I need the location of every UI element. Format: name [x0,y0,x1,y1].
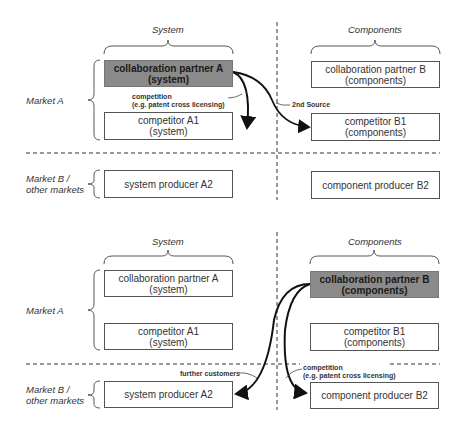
annotation-second-source: 2nd Source [292,101,330,109]
box-line2: (system) [138,126,199,137]
box-line2: (components) [345,127,407,138]
box-component-producer-b2-2: component producer B2 [310,382,439,409]
box-competitor-a1-1: competitor A1(system) [104,112,233,140]
box-line1: competitor B1 [344,326,406,337]
row-label-market-b-1: Market B / other markets [26,173,86,195]
box-line2: (system) [118,284,218,295]
row-label-market-a-1: Market A [26,95,64,106]
annotation-line1: competition [303,364,396,372]
market-a-brace-1 [88,60,100,140]
box-competitor-b1-2: competitor B1(components) [310,323,439,351]
column-label-system-1: System [152,24,184,35]
components-brace-1 [311,40,440,54]
competition-arrow-1 [233,72,248,128]
further-customers-leader [239,373,257,378]
box-line1: competitor A1 [138,115,199,126]
box-collaboration-partner-b-2: collaboration partner B(components) [310,271,439,298]
annotation-further-customers: further customers [180,370,240,378]
system-brace-2 [104,250,233,264]
box-line1: component producer B2 [322,180,429,191]
system-brace-1 [104,40,233,54]
box-system-producer-a2-2: system producer A2 [104,381,233,408]
box-line1: system producer A2 [124,179,212,190]
box-competitor-b1-1: competitor B1(components) [311,113,440,141]
box-line2: (system) [138,337,199,348]
further-customers-arrow [236,284,310,394]
box-line1: competitor A1 [138,326,199,337]
market-b-brace-1 [88,170,100,198]
box-competitor-a1-2: competitor A1(system) [104,323,233,350]
second-source-arrow [233,72,309,127]
box-line1: collaboration partner B [319,274,429,285]
row-label-market-b-2: Market B / other markets [26,384,86,406]
column-label-system-2: System [152,236,184,247]
components-brace-2 [310,250,439,264]
box-line1: component producer B2 [321,390,428,401]
box-collaboration-partner-a-1: collaboration partner A(system) [104,60,233,87]
column-label-components-2: Components [348,236,402,247]
row-label-market-a-2: Market A [26,305,64,316]
market-b-brace-2 [88,381,100,408]
box-collaboration-partner-b-1: collaboration partner B(components) [311,61,440,88]
box-collaboration-partner-a-2: collaboration partner A(system) [104,270,233,297]
competition-leader-1 [228,94,242,98]
box-line2: (components) [344,337,406,348]
box-line1: collaboration partner B [325,64,426,75]
market-a-brace-2 [88,270,100,350]
second-source-leader [276,103,290,105]
box-line2: (components) [319,285,429,296]
box-component-producer-b2-1: component producer B2 [311,171,440,199]
annotation-competition-2: competition (e.g. patent cross licensing… [303,364,396,380]
box-system-producer-a2-1: system producer A2 [104,170,233,198]
annotation-line2: (e.g. patent cross licensing) [303,372,396,380]
annotation-competition-1: competition (e.g. patent cross licensing… [132,93,225,109]
box-line1: system producer A2 [124,389,212,400]
box-line1: collaboration partner A [114,63,224,74]
box-line1: collaboration partner A [118,273,218,284]
column-label-components-1: Components [348,24,402,35]
annotation-line2: (e.g. patent cross licensing) [132,101,225,109]
box-line2: (components) [325,75,426,86]
box-line1: competitor B1 [345,116,407,127]
annotation-line1: competition [132,93,225,101]
box-line2: (system) [114,74,224,85]
